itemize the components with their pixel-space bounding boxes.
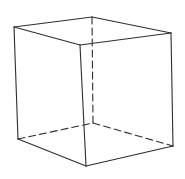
cube-diagram — [0, 0, 185, 179]
edge-top-back-right — [92, 17, 171, 33]
edge-bottom-front-right — [86, 146, 173, 166]
edge-top-front-left — [14, 27, 80, 45]
edge-hidden-bottom-left — [18, 123, 93, 139]
edge-vertical-left — [14, 27, 18, 139]
edge-bottom-front-left — [18, 139, 86, 166]
visible-edges — [14, 17, 173, 166]
edge-vertical-front — [80, 45, 86, 166]
edge-top-back-left — [14, 17, 92, 27]
edge-hidden-vertical — [92, 17, 93, 123]
edge-top-front-right — [80, 33, 171, 45]
edge-hidden-bottom-right — [93, 123, 173, 146]
edge-vertical-right — [171, 33, 173, 146]
